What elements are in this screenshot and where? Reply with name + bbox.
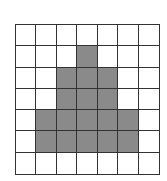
grid-cell-empty [16, 131, 36, 152]
grid-cell-empty [118, 68, 138, 89]
grid-cell-shaded [57, 68, 77, 89]
grid-cell-shaded [98, 68, 118, 89]
grid-cell-empty [36, 46, 56, 67]
grid-cell-empty [98, 25, 118, 46]
grid-cell-empty [77, 153, 97, 174]
grid-cell-shaded [98, 131, 118, 152]
grid-cell-shaded [57, 131, 77, 152]
grid-cell-empty [139, 25, 159, 46]
grid-cell-empty [139, 68, 159, 89]
grid-cell-shaded [118, 110, 138, 131]
grid-cell-shaded [57, 89, 77, 110]
grid-cell-shaded [77, 110, 97, 131]
grid-cell-empty [118, 25, 138, 46]
grid-cell-empty [118, 89, 138, 110]
grid-cell-empty [139, 46, 159, 67]
grid-cell-shaded [77, 68, 97, 89]
grid-cell-empty [36, 68, 56, 89]
grid-cell-shaded [57, 110, 77, 131]
grid-cell-empty [57, 153, 77, 174]
grid-cell-empty [139, 110, 159, 131]
grid-cell-shaded [77, 131, 97, 152]
grid-cell-empty [57, 25, 77, 46]
grid-cell-empty [77, 25, 97, 46]
grid-cell-shaded [118, 131, 138, 152]
grid-cell-empty [98, 46, 118, 67]
grid-cell-empty [57, 46, 77, 67]
grid-cell-empty [16, 153, 36, 174]
grid-cell-shaded [36, 131, 56, 152]
grid-cell-empty [36, 153, 56, 174]
grid-cell-shaded [77, 46, 97, 67]
grid-cell-empty [36, 89, 56, 110]
shaded-grid-diagram [15, 24, 160, 175]
grid-cell-empty [98, 153, 118, 174]
grid-cell-shaded [98, 110, 118, 131]
grid-cell-shaded [36, 110, 56, 131]
grid-cell-empty [139, 89, 159, 110]
grid-cell-empty [118, 46, 138, 67]
grid-cell-empty [118, 153, 138, 174]
grid-cell-empty [36, 25, 56, 46]
grid-cell-empty [16, 110, 36, 131]
grid-cell-shaded [98, 89, 118, 110]
grid-cell-shaded [77, 89, 97, 110]
grid-cell-empty [139, 153, 159, 174]
grid-cell-empty [16, 25, 36, 46]
grid-cell-empty [16, 46, 36, 67]
grid-cell-empty [139, 131, 159, 152]
grid-cell-empty [16, 89, 36, 110]
grid-cell-empty [16, 68, 36, 89]
